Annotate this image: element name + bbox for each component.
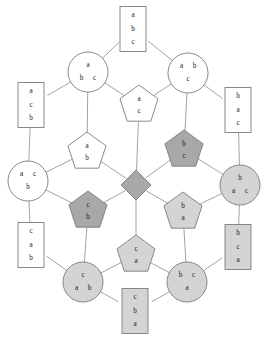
edge	[46, 256, 67, 271]
node-n12[interactable]: cb	[69, 191, 107, 227]
node-n3[interactable]: abc	[168, 53, 208, 93]
node-n10[interactable]	[121, 170, 151, 200]
node-n15[interactable]: ca	[117, 235, 155, 271]
node-n4[interactable]: acb	[18, 83, 44, 128]
edge	[100, 262, 121, 273]
node-label: c	[186, 75, 189, 83]
edge	[198, 193, 223, 205]
edge	[104, 82, 125, 96]
edge	[47, 82, 71, 96]
edge	[203, 84, 222, 98]
node-label: c	[182, 152, 185, 160]
node-n2[interactable]: abc	[68, 52, 108, 92]
diamond-shape	[121, 170, 151, 200]
node-n13[interactable]: ba	[164, 192, 202, 228]
edge	[136, 121, 138, 173]
node-n9[interactable]: acb	[8, 161, 48, 201]
node-label: b	[193, 62, 197, 70]
edge	[148, 41, 173, 61]
node-label: c	[192, 271, 195, 279]
lattice-diagram: abcabcabcacbacbacabbcacbbaccbbacabcabcac…	[0, 0, 266, 339]
node-label: b	[179, 271, 183, 279]
edge	[185, 92, 187, 134]
node-label: b	[133, 307, 137, 315]
node-label: c	[137, 107, 140, 115]
circle-shape	[168, 53, 208, 93]
circle-shape	[8, 161, 48, 201]
edge	[146, 160, 171, 178]
node-n17[interactable]: cab	[63, 262, 103, 302]
node-label: b	[181, 202, 185, 210]
node-n8[interactable]: bc	[165, 130, 203, 166]
node-label: c	[133, 293, 136, 301]
node-label: c	[93, 74, 96, 82]
node-n11[interactable]: bac	[220, 165, 260, 205]
node-label: b	[85, 154, 89, 162]
node-label: c	[29, 227, 32, 235]
circle-shape	[167, 262, 207, 302]
node-n19[interactable]: cba	[122, 289, 148, 334]
edge	[153, 83, 172, 96]
node-n18[interactable]: bca	[167, 262, 207, 302]
edge	[101, 161, 126, 178]
node-label: c	[236, 119, 239, 127]
edge	[150, 263, 170, 273]
node-label: b	[80, 74, 84, 82]
node-label: b	[88, 284, 92, 292]
edge	[84, 227, 87, 263]
edge	[184, 228, 186, 263]
edge	[102, 191, 125, 203]
node-label: c	[245, 187, 248, 195]
node-label: b	[236, 92, 240, 100]
circle-shape	[68, 52, 108, 92]
node-n7[interactable]: ab	[68, 132, 106, 168]
node-label: b	[131, 25, 135, 33]
edge	[203, 258, 223, 271]
node-label: c	[131, 38, 134, 46]
circle-shape	[220, 165, 260, 205]
node-n14[interactable]: cab	[18, 223, 44, 268]
node-label: c	[81, 271, 84, 279]
edge	[87, 91, 88, 136]
node-n5[interactable]: ac	[120, 85, 158, 121]
edge	[100, 291, 119, 301]
node-n1[interactable]: abc	[120, 7, 146, 52]
node-label: b	[29, 114, 33, 122]
node-n16[interactable]: bca	[225, 225, 251, 270]
edge	[29, 124, 31, 162]
node-label: c	[236, 243, 239, 251]
node-label: c	[86, 201, 89, 209]
node-label: b	[86, 213, 90, 221]
node-layer: abcabcabcacbacbacabbcacbbaccbbacabcabcac…	[8, 7, 260, 334]
edge	[45, 159, 72, 172]
edge	[45, 189, 73, 203]
circle-shape	[63, 262, 103, 302]
node-n6[interactable]: bac	[225, 88, 251, 133]
node-label: b	[182, 140, 186, 148]
edge	[152, 291, 171, 301]
edge	[198, 159, 224, 175]
node-label: b	[236, 229, 240, 237]
edge	[146, 191, 168, 204]
node-label: c	[33, 170, 36, 178]
node-label: b	[29, 254, 33, 262]
node-label: b	[238, 174, 242, 182]
node-label: b	[26, 183, 30, 191]
node-label: c	[29, 101, 32, 109]
edge	[102, 42, 120, 59]
edge	[239, 129, 240, 166]
node-label: c	[134, 245, 137, 253]
